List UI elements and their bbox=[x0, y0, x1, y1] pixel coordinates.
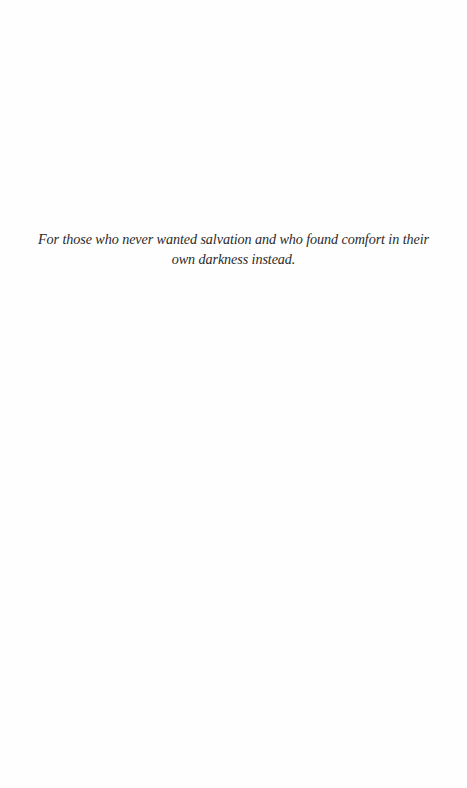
dedication-text: For those who never wanted salvation and… bbox=[30, 229, 437, 269]
dedication-line-1: For those who never wanted salvation and… bbox=[30, 229, 437, 249]
book-page: For those who never wanted salvation and… bbox=[0, 0, 467, 788]
dedication-line-2: own darkness instead. bbox=[30, 249, 437, 269]
